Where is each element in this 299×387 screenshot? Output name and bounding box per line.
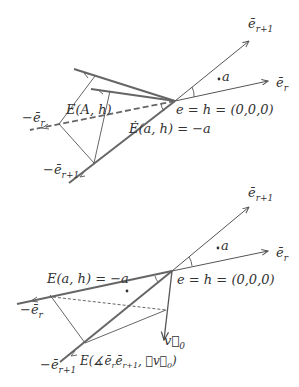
top-label-e-r-plus-1: ēr+1: [248, 17, 273, 34]
top-label-E-dot-a-h: Ė(a, h) = −a: [129, 122, 211, 135]
bottom-point-inner: [126, 290, 129, 293]
bottom-angle-arc: [189, 257, 192, 266]
top-thick-line-1: [74, 69, 175, 101]
top-label-origin: e = h = (0,0,0): [176, 103, 274, 116]
bottom-axis-e-r: [172, 251, 268, 271]
bottom-label-E-a-h: E(a, h) = −a: [47, 272, 129, 285]
bottom-thin-line-a: [50, 295, 85, 343]
bottom-thin-line-b: [85, 310, 166, 343]
top-axis-e-r-plus-1: [175, 41, 249, 101]
top-label-E-A-h: E(A, h): [66, 103, 112, 116]
top-label-minus-e-r-plus-1: −ēr+1: [43, 163, 79, 180]
top-axis-e-r: [175, 81, 268, 101]
top-thin-line-b: [59, 124, 94, 163]
top-arrow-mark-2: [98, 90, 104, 94]
bottom-label-E-angle: E(∡ērēr+1, ∡v⃗0): [80, 355, 177, 370]
diagram-canvas: ēr+1 ēr a e = h = (0,0,0) E(A, h) Ė(a, h…: [0, 0, 299, 387]
top-label-point-a: a: [222, 70, 230, 83]
bottom-label-minus-e-r-plus-1: −ēr+1: [40, 358, 76, 375]
bottom-label-origin: e = h = (0,0,0): [177, 273, 275, 286]
bottom-label-v0: v⃗0: [164, 334, 185, 351]
bottom-axis-e-r-plus-1: [172, 207, 249, 271]
top-label-minus-e-r: −ēr: [22, 111, 45, 128]
bottom-label-e-r-plus-1: ēr+1: [248, 186, 273, 203]
top-angle-arc: [192, 87, 194, 97]
top-arrow-mark-1: [84, 73, 89, 78]
bottom-label-minus-e-r: −ēr: [20, 303, 43, 320]
bottom-v0-line: [164, 271, 172, 340]
bottom-dashed-line: [53, 297, 166, 310]
top-point-a: [218, 78, 221, 81]
bottom-point-a: [217, 247, 220, 250]
bottom-label-e-r: ēr: [276, 246, 288, 263]
top-label-e-r: ēr: [276, 76, 288, 93]
bottom-label-point-a: a: [221, 239, 229, 252]
